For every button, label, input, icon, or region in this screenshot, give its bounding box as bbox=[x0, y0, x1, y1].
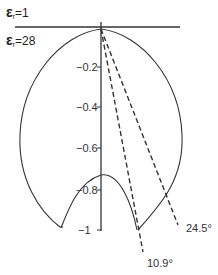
ray-24-5-deg bbox=[101, 29, 178, 225]
ray-10-9-deg bbox=[101, 29, 143, 252]
tick-label: −0.8 bbox=[76, 184, 98, 196]
medium-label-bottom: εr=28 bbox=[6, 34, 35, 51]
tick-label: −0.2 bbox=[76, 61, 98, 73]
tick-label: −0.6 bbox=[76, 142, 98, 154]
angle-label-24-5: 24.5° bbox=[186, 222, 212, 234]
angle-label-10-9: 10.9° bbox=[147, 257, 173, 269]
tick-label: −0.4 bbox=[76, 101, 98, 113]
pattern-outer-left bbox=[20, 29, 101, 227]
tick-label: −1 bbox=[78, 224, 91, 236]
pattern-inner-arc bbox=[61, 175, 137, 230]
medium-label-top: εr=1 bbox=[6, 6, 29, 23]
